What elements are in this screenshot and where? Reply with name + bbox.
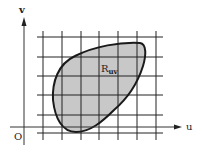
region-label-subscript: uv bbox=[109, 67, 119, 76]
origin-label: O bbox=[14, 131, 22, 142]
u-axis-label: u bbox=[186, 121, 193, 132]
v-axis-arrow-icon bbox=[22, 17, 27, 26]
uv-region-diagram: v u O Ruv bbox=[0, 0, 202, 153]
v-axis-label: v bbox=[18, 4, 26, 15]
u-axis-arrow-icon bbox=[174, 125, 182, 130]
